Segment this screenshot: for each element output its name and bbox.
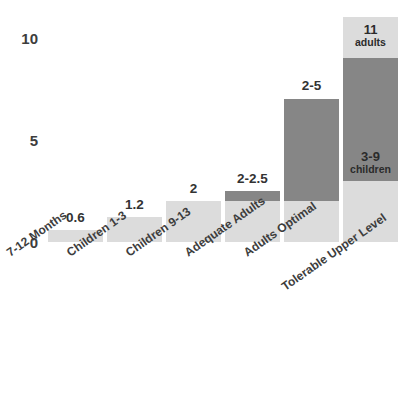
bar-value-label-2: 1.2	[95, 197, 174, 212]
segment-annotation-adults-value: 11	[343, 23, 398, 37]
bar-value-label-5: 2-5	[272, 78, 351, 93]
segment-annotation-children-sub: children	[343, 164, 398, 175]
y-tick-10: 10	[21, 30, 38, 47]
y-axis: 10 5 0	[0, 0, 42, 399]
bar-segment-dark	[284, 99, 339, 201]
plot-area: 0.6 1.2 2 2-2.5 2-5 1	[46, 10, 368, 242]
segment-annotation-adults-sub: adults	[343, 37, 398, 48]
y-tick-5: 5	[30, 132, 38, 149]
x-axis: 7-12 Months Children 1-3 Children 9-13 A…	[46, 242, 368, 399]
bar-segment-light-top: 11 adults	[343, 17, 398, 58]
segment-annotation-children: 3-9 children	[343, 150, 398, 175]
bar-value-label-4: 2-2.5	[213, 171, 292, 186]
segment-annotation-children-value: 3-9	[343, 150, 398, 164]
bar-segment-dark: 3-9 children	[343, 58, 398, 181]
segment-annotation-adults: 11 adults	[343, 23, 398, 48]
bar-tolerable-upper-level[interactable]: 11 adults 3-9 children	[343, 17, 398, 242]
